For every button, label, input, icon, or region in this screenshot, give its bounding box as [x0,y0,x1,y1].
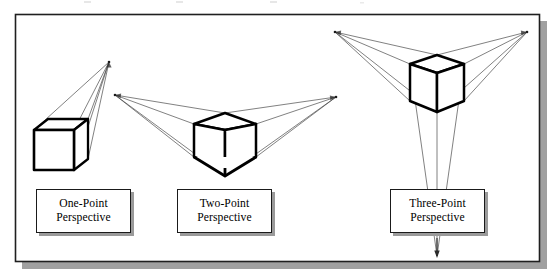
caption-two-point-line1: Two-Point [200,197,250,211]
caption-two-point-line2: Perspective [197,211,252,225]
caption-box-one-point: One-Point Perspective [36,189,131,233]
caption-box-two-point: Two-Point Perspective [177,189,272,233]
caption-three-point-line1: Three-Point [409,197,465,211]
perspective-illustration-svg [0,0,558,280]
perspective-diagram: One-Point Perspective Two-Point Perspect… [0,0,558,280]
one-point-cube-front-face [34,130,74,170]
scan-artifact-marks [84,1,364,4]
caption-one-point-line2: Perspective [56,211,111,225]
caption-one-point-line1: One-Point [59,197,108,211]
caption-box-three-point: Three-Point Perspective [390,189,485,233]
caption-three-point-line2: Perspective [410,211,465,225]
